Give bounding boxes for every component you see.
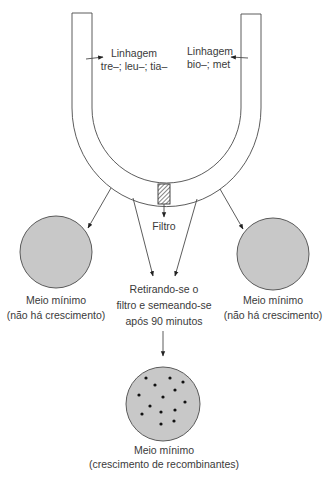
colony-dot [159,422,162,425]
colony-dot [144,376,147,379]
arrow-to-left-plate [88,188,111,228]
colony-dot [181,380,184,383]
colony-dot [183,400,186,403]
colony-dot [173,388,176,391]
process-step-line-1: Retirando-se o [130,283,199,295]
u-tube-outer-wall [72,13,261,207]
colony-dot [173,408,176,411]
left-plate [20,216,92,288]
right-plate-label-2: (não há crescimento) [224,309,323,321]
arrow-to-right-plate [220,189,243,229]
right-plate [237,218,309,290]
left-strain-genotype: tre–; leu–; tia– [101,60,168,72]
right-plate-label-1: Meio mínimo [243,294,303,306]
u-tube [72,13,261,207]
left-plate-label-2: (não há crescimento) [7,309,106,321]
colony-dot [137,393,140,396]
process-step-line-2: filtro e semeando-se [116,299,211,311]
right-strain-title: Linhagem [187,45,233,57]
u-tube-inner-wall [92,13,241,183]
bottom-plate [126,367,200,441]
arrow-center-left [133,198,153,276]
colony-dot [140,412,143,415]
bottom-plate-label-2: (crescimento de recombinantes) [89,458,239,470]
bottom-plate-label-1: Meio mínimo [134,444,194,456]
colony-dot [168,376,171,379]
left-strain-arrow [86,57,103,59]
filter [158,184,170,204]
arrow-center-right [175,199,197,276]
left-plate-label-1: Meio mínimo [26,294,86,306]
u-tube-experiment-diagram: Filtro Linhagem tre–; leu–; tia– Linhage… [0,0,325,479]
colony-dot [159,410,162,413]
colony-dot [153,383,156,386]
right-strain-genotype: bio–; met [187,58,230,70]
left-strain-title: Linhagem [111,47,157,59]
colony-dot [161,395,164,398]
right-strain-arrow [231,57,248,58]
process-step-line-3: após 90 minutos [125,315,202,327]
filter-label: Filtro [152,220,175,232]
bottom-plate-group [126,367,200,441]
colony-dot [172,419,175,422]
colony-dot [148,404,151,407]
